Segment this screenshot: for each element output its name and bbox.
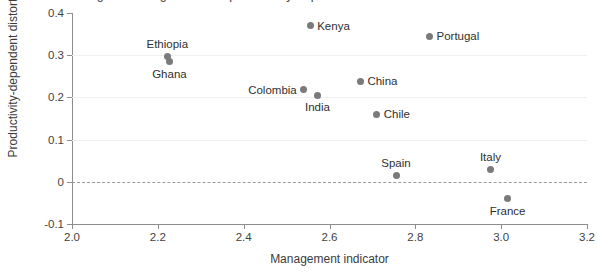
chart-title: Figure: Management and productivity-depe… (0, 0, 597, 2)
scatter-chart-figure: Figure: Management and productivity-depe… (0, 0, 597, 277)
data-point-label: Chile (384, 108, 410, 120)
y-tick-label: 0.2 (48, 91, 64, 103)
gridline (72, 140, 587, 141)
gridline (72, 55, 587, 56)
data-point-marker[interactable] (307, 22, 314, 29)
gridline (72, 97, 587, 98)
y-tick-mark (67, 140, 72, 141)
plot-area: 0.40.30.20.10-0.1 2.02.22.42.62.83.03.2 … (72, 13, 587, 224)
x-tick-label: 3.2 (579, 231, 595, 243)
data-point-marker[interactable] (314, 92, 321, 99)
y-tick-mark (67, 97, 72, 98)
y-tick-mark (67, 182, 72, 183)
data-point-marker[interactable] (487, 166, 494, 173)
x-tick-mark (587, 224, 588, 229)
data-point-label: France (490, 205, 526, 217)
data-point-label: India (305, 101, 330, 113)
x-tick-mark (330, 224, 331, 229)
data-point-marker[interactable] (357, 78, 364, 85)
data-point-marker[interactable] (504, 195, 511, 202)
data-point-label: Ethiopia (146, 38, 188, 50)
x-tick-mark (72, 224, 73, 229)
x-tick-mark (501, 224, 502, 229)
y-tick-mark (67, 13, 72, 14)
y-tick-label: 0 (58, 176, 64, 188)
x-tick-label: 3.0 (493, 231, 509, 243)
data-point-marker[interactable] (426, 33, 433, 40)
data-point-label: China (367, 75, 397, 87)
x-tick-mark (415, 224, 416, 229)
x-axis-label: Management indicator (72, 252, 587, 266)
data-point-label: Kenya (317, 20, 350, 32)
data-point-marker[interactable] (300, 86, 307, 93)
x-tick-mark (244, 224, 245, 229)
x-tick-label: 2.6 (322, 231, 338, 243)
data-point-marker[interactable] (393, 172, 400, 179)
x-tick-label: 2.2 (150, 231, 166, 243)
y-tick-label: 0.1 (48, 134, 64, 146)
data-point-label: Colombia (248, 84, 297, 96)
y-tick-mark (67, 55, 72, 56)
y-tick-label: 0.4 (48, 7, 64, 19)
data-point-label: Portugal (436, 30, 479, 42)
x-tick-mark (158, 224, 159, 229)
data-point-label: Italy (480, 151, 501, 163)
data-point-label: Ghana (152, 68, 187, 80)
y-axis-label: Productivity-dependent distortions (6, 0, 20, 173)
y-tick-label: -0.1 (44, 218, 64, 230)
y-tick-label: 0.3 (48, 49, 64, 61)
x-tick-label: 2.8 (407, 231, 423, 243)
x-tick-label: 2.0 (64, 231, 80, 243)
data-point-label: Spain (381, 157, 410, 169)
data-point-marker[interactable] (373, 111, 380, 118)
zero-reference-line (72, 182, 587, 183)
data-point-marker[interactable] (166, 58, 173, 65)
x-tick-label: 2.4 (236, 231, 252, 243)
